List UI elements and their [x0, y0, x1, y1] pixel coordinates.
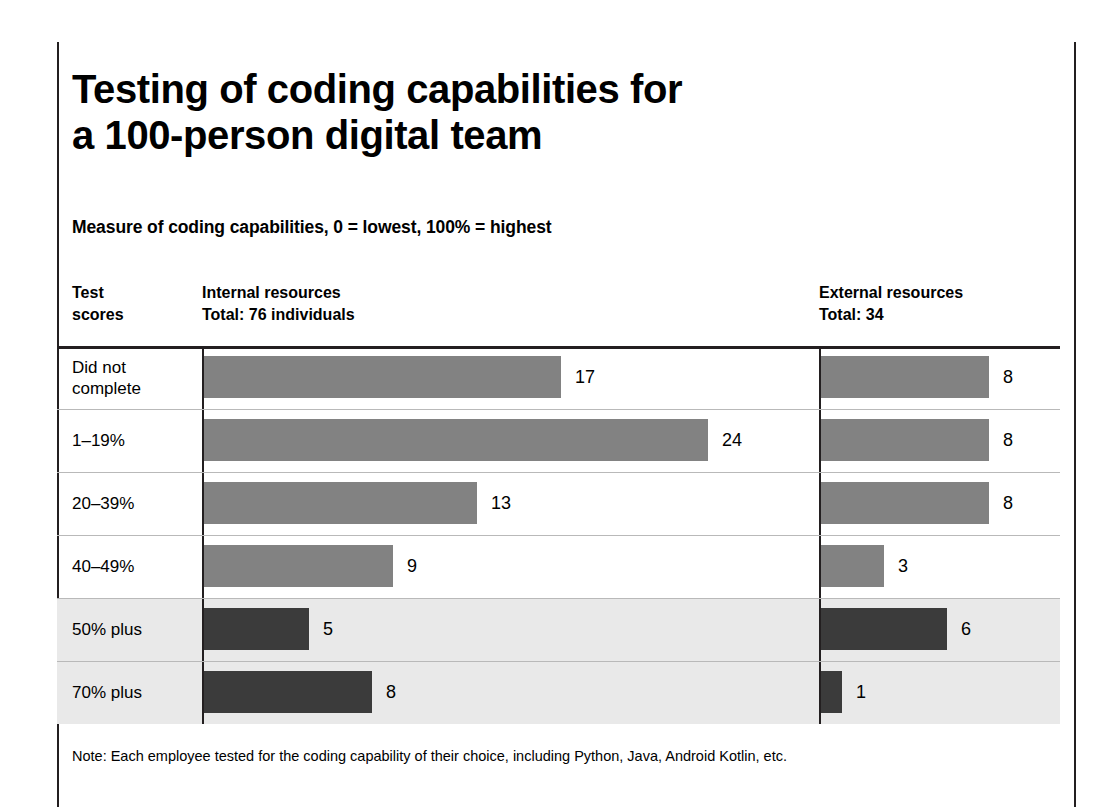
row-label-text: 70% plus	[72, 682, 142, 703]
chart-page: Testing of coding capabilities for a 100…	[0, 0, 1120, 807]
row-separator	[57, 409, 1060, 410]
column-header-internal-title: Internal resources	[202, 282, 355, 304]
row-label: 70% plus	[72, 661, 202, 724]
bar-value-label: 8	[386, 671, 396, 713]
row-label-text: 1–19%	[72, 430, 125, 451]
column-header-external-title: External resources	[819, 282, 963, 304]
column-header-internal-total: Total: 76 individuals	[202, 304, 355, 326]
bar-internal	[204, 671, 372, 713]
bar-value-label: 24	[722, 419, 742, 461]
row-label-text: 40–49%	[72, 556, 134, 577]
page-title-line-1: Testing of coding capabilities for	[72, 67, 682, 111]
row-label-text: 20–39%	[72, 493, 134, 514]
bar-value-label: 8	[1003, 482, 1013, 524]
column-header-test-scores: Test scores	[72, 282, 124, 326]
column-header-test-scores-line-2: scores	[72, 304, 124, 326]
row-label-text: 50% plus	[72, 619, 142, 640]
bar-external	[821, 545, 884, 587]
bar-value-label: 8	[1003, 419, 1013, 461]
bar-value-label: 1	[856, 671, 866, 713]
row-separator	[57, 661, 1060, 662]
chart-table: Did notcomplete1781–19%24820–39%13840–49…	[57, 346, 1060, 724]
bar-external	[821, 356, 989, 398]
chart-subtitle: Measure of coding capabilities, 0 = lowe…	[72, 217, 552, 238]
column-header-external-total: Total: 34	[819, 304, 963, 326]
row-separator	[57, 598, 1060, 599]
column-header-test-scores-line-1: Test	[72, 282, 124, 304]
bar-external	[821, 482, 989, 524]
row-label: 50% plus	[72, 598, 202, 661]
bar-value-label: 8	[1003, 356, 1013, 398]
bar-value-label: 3	[898, 545, 908, 587]
bar-value-label: 9	[407, 545, 417, 587]
row-label: 20–39%	[72, 472, 202, 535]
row-label: 40–49%	[72, 535, 202, 598]
row-separator	[57, 472, 1060, 473]
bar-external	[821, 671, 842, 713]
row-label-text: Did notcomplete	[72, 357, 141, 399]
bar-value-label: 13	[491, 482, 511, 524]
bar-internal	[204, 545, 393, 587]
table-row: 1–19%248	[57, 409, 1060, 472]
table-row: 20–39%138	[57, 472, 1060, 535]
chart-note: Note: Each employee tested for the codin…	[72, 748, 787, 764]
bar-internal	[204, 608, 309, 650]
table-row: 70% plus81	[57, 661, 1060, 724]
column-header-external: External resources Total: 34	[819, 282, 963, 326]
page-title-line-2: a 100-person digital team	[72, 112, 772, 158]
row-separator	[57, 535, 1060, 536]
table-row: 40–49%93	[57, 535, 1060, 598]
column-header-internal: Internal resources Total: 76 individuals	[202, 282, 355, 326]
row-label: Did notcomplete	[72, 346, 202, 409]
row-label: 1–19%	[72, 409, 202, 472]
bar-value-label: 17	[575, 356, 595, 398]
table-row: 50% plus56	[57, 598, 1060, 661]
bar-value-label: 5	[323, 608, 333, 650]
bar-value-label: 6	[961, 608, 971, 650]
bar-internal	[204, 482, 477, 524]
bar-internal	[204, 356, 561, 398]
bar-internal	[204, 419, 708, 461]
bar-external	[821, 419, 989, 461]
right-frame-rule	[1074, 42, 1076, 807]
page-title: Testing of coding capabilities for a 100…	[72, 66, 772, 158]
bar-external	[821, 608, 947, 650]
table-row: Did notcomplete178	[57, 346, 1060, 409]
